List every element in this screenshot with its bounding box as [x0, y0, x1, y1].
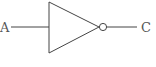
- inversion-bubble: [99, 23, 106, 30]
- not-gate-diagram: A C: [0, 0, 156, 67]
- not-gate-triangle: [49, 2, 99, 53]
- output-label-c: C: [141, 20, 151, 35]
- input-label-a: A: [0, 20, 10, 35]
